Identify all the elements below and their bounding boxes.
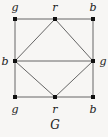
graph-edge — [15, 61, 55, 97]
node-layer — [13, 17, 95, 99]
vertex-label: r — [52, 104, 57, 115]
edge-layer — [15, 19, 93, 97]
vertex-label: b — [89, 104, 96, 115]
vertex-label: r — [52, 2, 57, 13]
graph-vertex — [13, 17, 17, 21]
figure-caption: G — [50, 119, 60, 131]
graph-vertex — [91, 59, 95, 63]
graph-vertex — [91, 95, 95, 99]
graph-vertex — [13, 59, 17, 63]
vertex-label: g — [11, 2, 18, 13]
vertex-label: g — [99, 56, 106, 67]
graph-edge — [15, 19, 55, 61]
vertex-label: b — [89, 2, 96, 13]
graph-figure: grbbggrb G — [0, 0, 108, 137]
vertex-label: g — [11, 104, 18, 115]
vertex-label: b — [1, 56, 8, 67]
graph-edge — [55, 61, 93, 97]
graph-vertex — [53, 95, 57, 99]
graph-vertex — [13, 95, 17, 99]
graph-vertex — [53, 17, 57, 21]
graph-canvas — [0, 0, 108, 137]
graph-edge — [55, 19, 93, 61]
graph-vertex — [91, 17, 95, 21]
